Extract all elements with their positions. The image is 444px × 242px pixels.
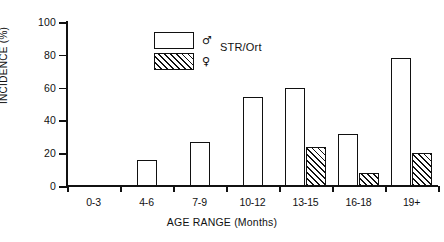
y-tick-mark bbox=[59, 55, 67, 57]
x-category-label: 4-6 bbox=[139, 196, 154, 208]
y-tick-label: 20 bbox=[44, 147, 56, 159]
bar-female-13-15 bbox=[306, 147, 326, 186]
bar-male-10-12 bbox=[243, 97, 263, 186]
y-tick-mark bbox=[59, 120, 67, 122]
y-tick-label: 0 bbox=[50, 180, 56, 192]
chart-container: INCIDENCE (%) 0204060801000-34-67-910-12… bbox=[0, 0, 444, 242]
x-category-label: 19+ bbox=[403, 196, 420, 208]
x-category-label: 0-3 bbox=[86, 196, 101, 208]
legend-female-symbol: ♀ bbox=[202, 53, 210, 70]
x-category-label: 10-12 bbox=[240, 196, 266, 208]
y-tick-mark bbox=[59, 186, 67, 188]
y-tick-mark bbox=[59, 88, 67, 90]
bar-male-16-18 bbox=[338, 134, 358, 186]
bar-male-13-15 bbox=[285, 88, 305, 186]
y-tick-mark bbox=[59, 153, 67, 155]
legend-swatch-female bbox=[154, 53, 194, 70]
x-tick-mark bbox=[120, 186, 122, 192]
x-tick-mark bbox=[332, 186, 334, 192]
bar-female-16-18 bbox=[359, 173, 379, 186]
legend: ♂ ♀ STR/Ort bbox=[154, 32, 304, 74]
legend-male-symbol: ♂ bbox=[202, 32, 212, 49]
x-tick-mark bbox=[67, 186, 69, 192]
bar-male-7-9 bbox=[190, 142, 210, 186]
x-category-label: 13-15 bbox=[293, 196, 319, 208]
y-tick-label: 80 bbox=[44, 49, 56, 61]
bar-male-4-6 bbox=[137, 160, 157, 186]
y-tick-mark bbox=[59, 22, 67, 24]
y-axis-title: INCIDENCE (%) bbox=[0, 27, 9, 104]
legend-group-label: STR/Ort bbox=[220, 41, 262, 53]
x-category-label: 16-18 bbox=[346, 196, 372, 208]
x-tick-mark bbox=[173, 186, 175, 192]
x-tick-mark bbox=[226, 186, 228, 192]
bar-female-19+ bbox=[412, 153, 432, 186]
x-category-label: 7-9 bbox=[192, 196, 207, 208]
x-tick-mark bbox=[438, 186, 440, 192]
bar-male-19+ bbox=[391, 58, 411, 186]
x-axis-title: AGE RANGE (Months) bbox=[0, 216, 444, 228]
x-tick-mark bbox=[385, 186, 387, 192]
y-tick-label: 100 bbox=[38, 16, 56, 28]
y-tick-label: 60 bbox=[44, 82, 56, 94]
y-tick-label: 40 bbox=[44, 114, 56, 126]
x-tick-mark bbox=[279, 186, 281, 192]
legend-swatch-male bbox=[154, 32, 194, 49]
